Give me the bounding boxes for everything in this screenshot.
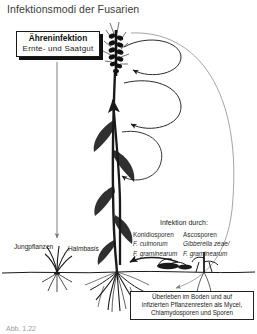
figure-title: Infektionsmodi der Fusarien bbox=[7, 3, 139, 15]
residue-to-base-arrow bbox=[130, 258, 178, 263]
survival-line-2: infizierten Pflanzenresten als Mycel, bbox=[133, 301, 251, 309]
callout-heading: Ähreninfektion bbox=[19, 34, 97, 44]
figure-caption: Abb. 1.22 bbox=[6, 325, 36, 332]
survival-box: Überleben im Boden und auf infizierten P… bbox=[130, 291, 254, 320]
conidiospore-species-2: F. graminearum bbox=[133, 249, 183, 258]
ahreninfektion-callout: Ähreninfektion Ernte- und Saatgut bbox=[16, 31, 100, 57]
lower-loop-arrow bbox=[124, 81, 181, 129]
callout-subtext: Ernte- und Saatgut bbox=[19, 44, 97, 54]
survival-line-3: Chlamydosporen und Sporen bbox=[133, 309, 251, 317]
upper-loop-arrow bbox=[124, 40, 181, 75]
label-halmbasis: Halmbasis bbox=[68, 245, 99, 252]
conidiospore-heading: Konidiosporen bbox=[133, 230, 183, 239]
seedling-icon bbox=[42, 246, 72, 292]
ascospore-column: Ascosporen Gibberella zeae/ F. graminear… bbox=[183, 230, 253, 258]
wheat-stem-icon bbox=[94, 72, 135, 272]
conidiospore-column: Konidiosporen F. culmorum F. graminearum bbox=[133, 230, 183, 258]
label-jungpflanzen: Jungpflanzen bbox=[14, 243, 53, 250]
soil-line bbox=[2, 271, 255, 273]
label-infektion-durch: Infektion durch: bbox=[160, 219, 208, 226]
ascospore-species-1: Gibberella zeae/ bbox=[183, 239, 253, 248]
ascospore-species-2: F. graminearum bbox=[183, 249, 253, 258]
wheat-ear-icon bbox=[103, 22, 129, 76]
survival-line-1: Überleben im Boden und auf bbox=[133, 293, 251, 301]
spore-sources-list: Konidiosporen F. culmorum F. graminearum… bbox=[133, 230, 253, 258]
ascospore-heading: Ascosporen bbox=[183, 230, 253, 239]
conidiospore-species-1: F. culmorum bbox=[133, 239, 183, 248]
